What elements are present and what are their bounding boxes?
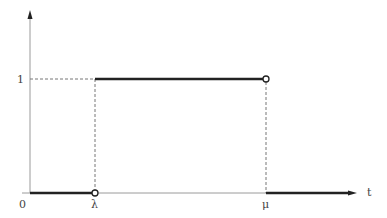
- open-point-lambda: [92, 190, 98, 196]
- open-point-mu: [263, 76, 269, 82]
- lambda-label: λ: [91, 199, 98, 210]
- y-tick-1: 1: [17, 74, 24, 85]
- t-axis-label: t: [367, 187, 371, 198]
- y-axis-arrow-icon: [28, 10, 33, 19]
- step-function-plot: [0, 0, 387, 218]
- mu-label: μ: [262, 199, 269, 210]
- origin-label: 0: [19, 199, 26, 210]
